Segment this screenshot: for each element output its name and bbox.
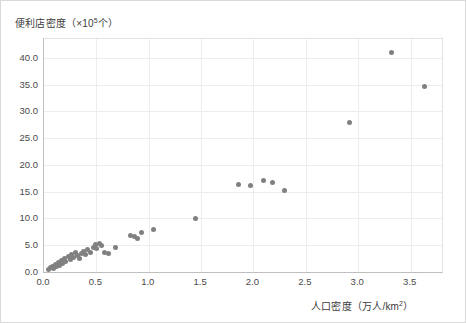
x-gridline <box>253 39 254 272</box>
y-gridline <box>44 111 442 112</box>
x-gridline <box>411 39 412 272</box>
scatter-point <box>106 251 111 256</box>
plot-area <box>43 38 443 273</box>
x-axis-tick-label: 3.0 <box>337 276 377 287</box>
x-gridline <box>149 39 150 272</box>
scatter-point <box>422 84 427 89</box>
scatter-point <box>248 183 253 188</box>
x-axis-label: 人口密度（万人/km2） <box>311 298 413 313</box>
y-axis-tick-label: 40.0 <box>4 51 38 62</box>
scatter-point <box>270 180 275 185</box>
x-axis-tick-label: 1.5 <box>180 276 220 287</box>
scatter-point <box>94 246 99 251</box>
y-axis-tick-label: 10.0 <box>4 212 38 223</box>
x-axis-tick-label: 3.5 <box>390 276 430 287</box>
y-gridline <box>44 165 442 166</box>
scatter-point <box>193 216 198 221</box>
scatter-point <box>113 245 118 250</box>
x-gridline <box>358 39 359 272</box>
y-gridline <box>44 85 442 86</box>
y-axis-tick-label: 15.0 <box>4 185 38 196</box>
scatter-point <box>389 50 394 55</box>
scatter-point <box>88 250 93 255</box>
x-axis-tick-label: 0.0 <box>23 276 63 287</box>
y-gridline <box>44 192 442 193</box>
y-axis-tick-label: 20.0 <box>4 158 38 169</box>
x-gridline <box>96 39 97 272</box>
y-gridline <box>44 58 442 59</box>
y-gridline <box>44 138 442 139</box>
scatter-point <box>261 178 266 183</box>
scatter-point <box>236 182 241 187</box>
scatter-point <box>139 230 144 235</box>
x-axis-tick-label: 0.5 <box>75 276 115 287</box>
y-axis-tick-label: 5.0 <box>4 239 38 250</box>
x-axis-tick-label: 1.0 <box>128 276 168 287</box>
x-axis-label-tail: ） <box>403 301 413 312</box>
scatter-point <box>151 227 156 232</box>
x-gridline <box>306 39 307 272</box>
y-axis-label-tail: 个） <box>98 18 118 29</box>
scatter-point <box>135 236 140 241</box>
scatter-point <box>99 243 104 248</box>
scatter-point <box>77 256 82 261</box>
y-axis-tick-label: 30.0 <box>4 105 38 116</box>
y-axis-label: 便利店密度（×105个） <box>15 15 118 30</box>
y-axis-tick-label: 0.0 <box>4 266 38 277</box>
x-axis-label-main: 人口密度（万人/km <box>311 301 399 312</box>
scatter-chart-figure: 便利店密度（×105个） 人口密度（万人/km2） 0.05.010.015.0… <box>0 0 466 323</box>
scatter-point <box>347 120 352 125</box>
y-gridline <box>44 218 442 219</box>
y-axis-label-main: 便利店密度（×10 <box>15 18 94 29</box>
x-axis-tick-label: 2.5 <box>285 276 325 287</box>
y-axis-tick-label: 35.0 <box>4 78 38 89</box>
x-gridline <box>201 39 202 272</box>
y-axis-tick-label: 25.0 <box>4 132 38 143</box>
x-axis-tick-label: 2.0 <box>232 276 272 287</box>
